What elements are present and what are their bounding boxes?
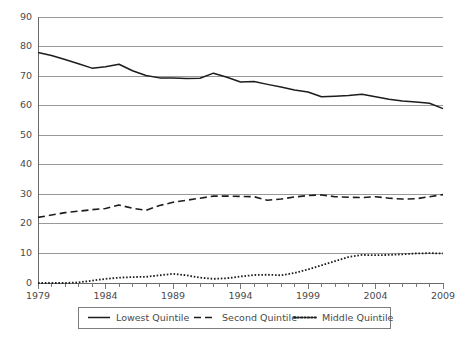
line-chart: 0102030405060708090197919841989199419992… xyxy=(0,0,467,342)
y-axis-tick-label: 20 xyxy=(20,217,32,228)
legend-label-2: Second Quintile xyxy=(222,312,297,323)
y-axis-tick-label: 30 xyxy=(20,188,32,199)
y-axis-tick-label: 40 xyxy=(20,158,32,169)
y-axis-tick-label: 60 xyxy=(20,99,32,110)
series-line-2 xyxy=(38,195,443,218)
legend-label-1: Lowest Quintile xyxy=(116,312,189,323)
x-axis-tick-label: 1994 xyxy=(228,290,252,301)
series-line-1 xyxy=(38,52,443,108)
chart-container: 0102030405060708090197919841989199419992… xyxy=(0,0,467,342)
y-axis-tick-label: 80 xyxy=(20,40,32,51)
x-axis-tick-label: 1989 xyxy=(161,290,185,301)
x-axis-tick-label: 1984 xyxy=(93,290,117,301)
x-axis-tick-label: 2004 xyxy=(363,290,387,301)
x-axis-tick-label: 1979 xyxy=(26,290,50,301)
x-axis-tick-label: 1999 xyxy=(296,290,320,301)
y-axis-tick-label: 90 xyxy=(20,11,32,22)
y-axis-tick-label: 0 xyxy=(26,277,32,288)
x-axis-tick-label: 2009 xyxy=(431,290,455,301)
y-axis-tick-label: 50 xyxy=(20,129,32,140)
y-axis-tick-label: 10 xyxy=(20,247,32,258)
legend-label-3: Middle Quintile xyxy=(322,312,394,323)
y-axis-tick-label: 70 xyxy=(20,70,32,81)
series-line-3 xyxy=(38,253,443,283)
